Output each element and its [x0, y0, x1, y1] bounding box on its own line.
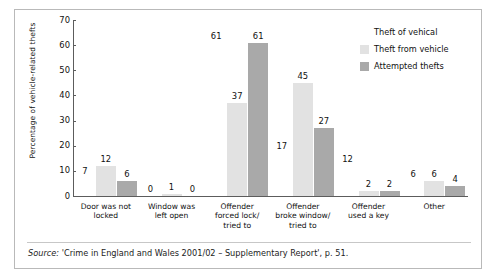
bar-value-label: 0: [148, 184, 153, 194]
bar-value-label: 61: [211, 31, 222, 41]
bar-rect: [272, 153, 292, 196]
x-axis-category-label: Other: [391, 202, 477, 211]
y-axis-tick-label: 0: [30, 191, 70, 201]
y-axis-tick-label: 20: [30, 140, 70, 150]
y-axis-tick-label: 50: [30, 65, 70, 75]
bar-group: 613761Offenderforced lock/tried to: [204, 20, 270, 196]
y-axis-tick-label: 70: [30, 15, 70, 25]
bar-rect: [403, 181, 423, 196]
legend-swatch-icon: [360, 45, 369, 54]
bar-value-label: 4: [453, 174, 458, 184]
bar-group: 174527Offenderbroke window/tried to: [270, 20, 336, 196]
bar[interactable]: 12: [96, 20, 116, 196]
bar-value-label: 7: [82, 166, 87, 176]
bar[interactable]: 61: [206, 20, 226, 196]
bar-rect: [117, 181, 137, 196]
y-axis-tick-label: 10: [30, 165, 70, 175]
bar[interactable]: 45: [293, 20, 313, 196]
bar-rect: [293, 83, 313, 196]
chart-plot-area: Percentage of vehicle-related thefts 010…: [15, 10, 483, 215]
bar-value-label: 6: [432, 169, 437, 179]
bar[interactable]: 17: [272, 20, 292, 196]
bar[interactable]: 7: [75, 20, 95, 196]
bar-value-label: 0: [190, 184, 195, 194]
bar-value-label: 12: [100, 154, 111, 164]
legend-label: Attempted thefts: [374, 61, 444, 71]
bar-rect: [248, 43, 268, 196]
bar-group: 010Window wasleft open: [139, 20, 205, 196]
bar-value-label: 1: [169, 182, 174, 192]
bar[interactable]: 1: [162, 20, 182, 196]
legend-swatch-blank: [360, 28, 369, 37]
bar-rect: [338, 166, 358, 196]
bar[interactable]: 37: [227, 20, 247, 196]
source-text: 'Crime in England and Wales 2001/02 – Su…: [59, 248, 348, 258]
legend-item-theft-from-vehicle[interactable]: Theft from vehicle: [360, 41, 478, 57]
y-axis-tick-label: 30: [30, 115, 70, 125]
bar-value-label: 61: [253, 31, 264, 41]
bar-group-bars: 010: [139, 20, 205, 196]
bar[interactable]: 0: [141, 20, 161, 196]
bar-rect: [445, 186, 465, 196]
bar[interactable]: 61: [248, 20, 268, 196]
legend-title-row: Theft of vehical: [360, 24, 478, 40]
bar-value-label: 37: [232, 91, 243, 101]
bar-value-label: 17: [277, 141, 288, 151]
bar-value-label: 12: [342, 154, 353, 164]
bar-group-bars: 7126: [73, 20, 139, 196]
legend-label: Theft from vehicle: [374, 44, 449, 54]
bar-value-label: 45: [298, 71, 309, 81]
bar-value-label: 2: [387, 179, 392, 189]
bar-group-bars: 174527: [270, 20, 336, 196]
bar-rect: [96, 166, 116, 196]
bar-rect: [359, 191, 379, 196]
bar-group-bars: 613761: [204, 20, 270, 196]
bar-value-label: 2: [366, 179, 371, 189]
source-divider: [27, 242, 471, 243]
legend-item-attempted-thefts[interactable]: Attempted thefts: [360, 58, 478, 74]
bar[interactable]: 27: [314, 20, 334, 196]
source-prefix: Source:: [28, 248, 59, 258]
bar[interactable]: 6: [117, 20, 137, 196]
bar-rect: [75, 178, 95, 196]
y-axis-tick-label: 60: [30, 40, 70, 50]
bar-value-label: 27: [319, 116, 330, 126]
bar-value-label: 6: [124, 169, 129, 179]
bar-rect: [380, 191, 400, 196]
y-axis-tick-label: 40: [30, 90, 70, 100]
bar-value-label: 6: [411, 169, 416, 179]
bar-rect: [424, 181, 444, 196]
bar[interactable]: 0: [183, 20, 203, 196]
y-axis-tick-mark: [73, 196, 76, 197]
chart-legend: Theft of vehical Theft from vehicle Atte…: [360, 24, 478, 75]
bar[interactable]: 12: [338, 20, 358, 196]
bar-rect: [162, 194, 182, 197]
source-note: Source: 'Crime in England and Wales 2001…: [28, 248, 348, 258]
x-axis-line: [73, 196, 468, 197]
bar-group: 7126Door was notlocked: [73, 20, 139, 196]
chart-figure: Percentage of vehicle-related thefts 010…: [14, 9, 482, 269]
bar-rect: [314, 128, 334, 196]
legend-swatch-icon: [360, 62, 369, 71]
bar-rect: [227, 103, 247, 196]
legend-title: Theft of vehical: [374, 27, 437, 37]
bar-rect: [206, 43, 226, 196]
